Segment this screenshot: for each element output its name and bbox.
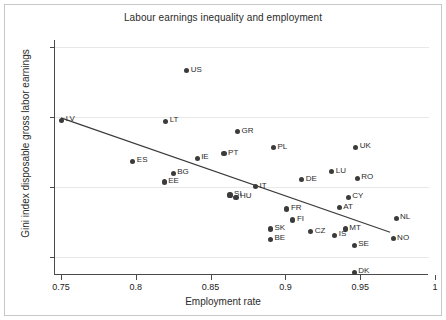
data-point-label: IS [339,229,347,238]
data-point-label: DK [358,266,369,275]
data-point-marker [162,179,167,184]
x-tick-mark [360,275,361,280]
data-point-label: SE [358,239,369,248]
data-point-marker [332,233,337,238]
data-point-label: LU [336,166,346,175]
data-point-label: RO [361,172,373,181]
data-point-marker [337,205,342,210]
data-point-marker [352,270,357,275]
data-point-label: BG [177,167,189,176]
data-point-marker [227,192,232,197]
data-point-label: US [191,65,202,74]
data-point-marker [346,195,351,200]
data-point-marker [163,119,168,124]
gridline-y [55,187,429,188]
x-tick-label: 0.85 [191,282,231,292]
data-point-label: HU [240,191,252,200]
data-point-marker [308,229,313,234]
data-point-marker [394,216,399,221]
data-point-marker [253,184,258,189]
chart-title: Labour earnings inequality and employmen… [0,12,446,23]
data-point-label: EE [168,176,179,185]
data-point-label: PL [277,142,287,151]
data-point-marker [271,145,276,150]
data-point-marker [284,206,289,211]
y-tick-mark [50,257,55,258]
data-point-label: NO [397,233,409,242]
chart-figure: Labour earnings inequality and employmen… [0,0,446,320]
data-point-marker [235,129,240,134]
x-tick-mark [61,275,62,280]
x-tick-mark [211,275,212,280]
data-point-label: PT [228,148,238,157]
data-point-marker [329,169,334,174]
data-point-label: DE [306,174,317,183]
data-point-marker [233,195,238,200]
data-point-label: FI [297,214,304,223]
x-axis-label: Employment rate [0,296,446,307]
data-point-marker [221,151,226,156]
y-tick-mark [50,187,55,188]
data-point-label: ES [137,155,148,164]
x-tick-label: 0.9 [265,282,305,292]
data-point-marker [130,159,135,164]
regression-line [55,40,429,275]
data-point-label: CY [352,191,363,200]
gridline-y [55,47,429,48]
gridline-y [55,257,429,258]
data-point-marker [391,236,396,241]
data-point-marker [195,156,200,161]
data-point-label: IE [201,152,209,161]
x-tick-mark [435,275,436,280]
data-point-marker [184,68,189,73]
x-tick-mark [136,275,137,280]
y-axis-label: Gini index disposable gross labor earnin… [20,24,31,264]
data-point-marker [355,176,360,181]
data-point-label: CZ [315,226,326,235]
data-point-marker [59,118,64,123]
data-point-label: FR [291,203,302,212]
data-point-marker [290,217,295,222]
plot-area: 0.30.40.50.6 0.750.80.850.90.951 LVUSLTG… [54,40,428,275]
data-point-label: UK [360,141,371,150]
data-point-label: SK [274,223,285,232]
data-point-label: IT [259,181,266,190]
x-tick-label: 1 [415,282,446,292]
x-tick-mark [285,275,286,280]
data-point-label: NL [400,212,410,221]
data-point-label: LV [66,114,75,123]
data-point-marker [268,237,273,242]
x-tick-label: 0.8 [116,282,156,292]
data-point-label: AT [343,202,353,211]
y-tick-mark [50,47,55,48]
x-tick-label: 0.75 [41,282,81,292]
data-point-marker [268,226,273,231]
data-point-label: BE [274,233,285,242]
data-point-marker [353,145,358,150]
data-point-marker [352,243,357,248]
data-point-label: LT [170,115,179,124]
y-tick-mark [50,117,55,118]
data-point-label: MT [349,223,361,232]
x-tick-label: 0.95 [340,282,380,292]
data-point-marker [299,177,304,182]
gridline-y [55,117,429,118]
data-point-label: GR [242,126,254,135]
